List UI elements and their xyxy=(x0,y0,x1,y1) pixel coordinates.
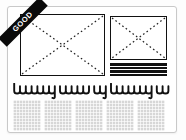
image-placeholder-x-icon xyxy=(111,17,166,59)
body-text-blocks xyxy=(13,100,165,131)
sidebar-text-bars xyxy=(110,63,167,76)
headline-scribble xyxy=(13,83,170,100)
text-bar xyxy=(110,67,167,70)
text-bar xyxy=(110,63,167,66)
secondary-image-placeholder xyxy=(110,16,167,60)
text-bar xyxy=(110,74,167,77)
layout-example-card: GOOD xyxy=(7,6,177,133)
text-block xyxy=(44,100,72,131)
text-block xyxy=(75,100,103,131)
headline-scribble-path xyxy=(14,84,168,99)
text-bar xyxy=(110,70,167,73)
hero-image-placeholder xyxy=(20,14,105,76)
text-block xyxy=(106,100,134,131)
text-block xyxy=(137,100,165,131)
text-block xyxy=(13,100,41,131)
image-placeholder-x-icon xyxy=(21,15,104,75)
